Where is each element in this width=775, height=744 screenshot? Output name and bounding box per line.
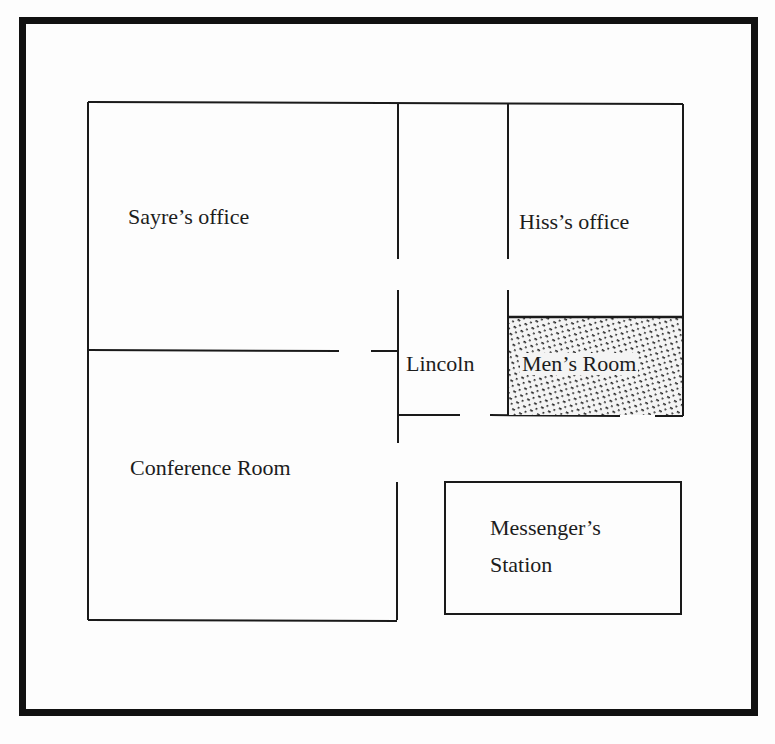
floor-plan — [0, 0, 775, 744]
messenger-station-box — [445, 482, 681, 614]
room-label-mens: Men’s Room — [520, 353, 638, 375]
room-label-hiss: Hiss’s office — [519, 211, 629, 233]
room-label-messenger-1: Messenger’s — [490, 517, 601, 539]
room-label-lincoln: Lincoln — [406, 353, 474, 375]
room-label-conference: Conference Room — [130, 457, 291, 479]
room-label-sayre: Sayre’s office — [128, 206, 249, 228]
room-label-messenger-2: Station — [490, 554, 552, 576]
